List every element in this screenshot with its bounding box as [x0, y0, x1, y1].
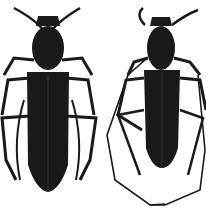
beetle-photo — [0, 0, 206, 219]
right-beetle — [107, 8, 206, 205]
left-beetle — [2, 8, 96, 192]
